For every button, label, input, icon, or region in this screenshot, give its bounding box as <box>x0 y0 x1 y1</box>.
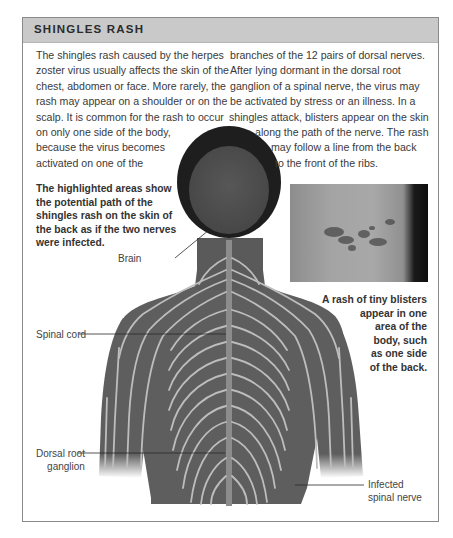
spinal-cord-shape <box>226 240 232 506</box>
body-line: shingles attack, blisters appear on the … <box>229 110 429 125</box>
note-line: the potential path of the <box>36 196 176 210</box>
body-line: chest, abdomen or face. More rarely, the <box>36 79 229 94</box>
note-line: the back as if the two nerves <box>36 223 176 237</box>
note-line: shingles rash on the skin of <box>36 209 176 223</box>
blister-cluster <box>324 219 395 251</box>
body-line: zoster virus usually affects the skin of… <box>36 63 229 78</box>
label-line: Infected <box>368 478 422 491</box>
body-line: The shingles rash caused by the herpes <box>36 48 229 63</box>
note-line: The highlighted areas show <box>36 182 176 196</box>
label-dorsal-root-ganglion: Dorsal root ganglion <box>36 447 85 473</box>
body-line: ganglion of a spinal nerve, the virus ma… <box>230 79 429 94</box>
caption-line: A rash of tiny blisters <box>322 293 427 307</box>
highlight-note: The highlighted areas show the potential… <box>36 182 176 250</box>
label-infected-spinal-nerve: Infected spinal nerve <box>368 478 422 504</box>
label-spinal-cord: Spinal cord <box>36 328 86 341</box>
shingles-rash-panel: SHINGLES RASH <box>22 17 439 522</box>
body-line: to the front of the ribs. <box>275 156 429 171</box>
caption-line: of the back. <box>322 361 427 375</box>
body-line: After lying dormant in the dorsal root <box>230 63 429 78</box>
body-line: on only one side of the body, <box>36 125 229 140</box>
label-line: spinal nerve <box>368 491 422 504</box>
body-line: branches of the 12 pairs of dorsal nerve… <box>230 48 429 63</box>
photo-caption: A rash of tiny blisters appear in one ar… <box>322 293 427 375</box>
caption-line: appear in one <box>322 307 427 321</box>
body-text-left: The shingles rash caused by the herpes z… <box>36 48 229 171</box>
body-line: scalp. It is common for the rash to occu… <box>36 110 229 125</box>
caption-line: as one side <box>322 347 427 361</box>
body-line: may follow a line from the back <box>271 140 429 155</box>
caption-line: area of the <box>322 320 427 334</box>
body-line: because the virus becomes <box>36 140 229 155</box>
body-line: be activated by stress or an illness. In… <box>230 94 429 109</box>
rash-photo <box>290 184 428 282</box>
label-line: Dorsal root <box>36 447 85 460</box>
label-brain: Brain <box>118 252 141 265</box>
note-line: were infected. <box>36 236 176 250</box>
body-line: activated on one of the <box>36 156 229 171</box>
caption-line: body, such <box>322 334 427 348</box>
body-line: rash may appear on a shoulder or on the <box>36 94 229 109</box>
body-line: along the path of the nerve. The rash <box>255 125 429 140</box>
body-text-right: branches of the 12 pairs of dorsal nerve… <box>230 48 429 171</box>
label-line: ganglion <box>36 460 85 473</box>
